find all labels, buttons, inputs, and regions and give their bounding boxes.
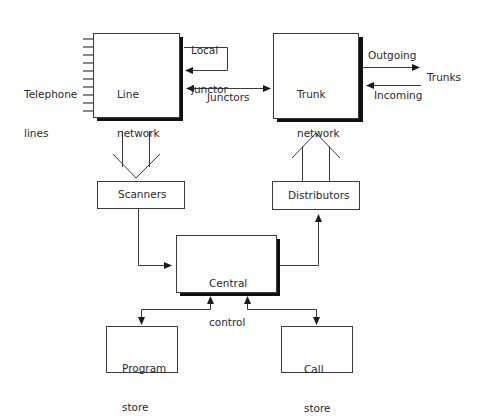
trunk-network-label: Trunk network <box>297 62 340 153</box>
telephone-lines-label-line1: Telephone <box>24 88 77 101</box>
call-store-label: Call store <box>304 337 331 416</box>
trunk-network-label-line2: network <box>297 127 340 140</box>
incoming-label: Incoming <box>374 89 422 102</box>
central-control-label-line1: Central <box>209 277 247 290</box>
telephone-lines-label-line2: lines <box>24 127 77 140</box>
program-store-label-line2: store <box>122 401 166 414</box>
central-control-label-line2: control <box>209 316 247 329</box>
central-control-label: Central control <box>209 251 247 342</box>
distributors-label: Distributors <box>288 189 349 202</box>
local-junctor-label-line1: Local <box>191 44 228 57</box>
program-store-label: Program store <box>122 336 166 416</box>
outgoing-label: Outgoing <box>368 49 416 62</box>
scanners-to-central-arrow <box>139 209 172 266</box>
program-store-central-arrow <box>142 297 211 324</box>
line-network-label-line2: network <box>117 127 160 140</box>
telephone-lines-ticks <box>83 39 93 111</box>
line-network-label-line1: Line <box>117 88 160 101</box>
call-store-central-arrow <box>248 297 317 324</box>
call-store-label-line2: store <box>304 402 331 415</box>
program-store-label-line1: Program <box>122 362 166 375</box>
central-to-distributors-arrow <box>280 215 319 266</box>
scanners-label: Scanners <box>118 188 166 201</box>
trunks-label: Trunks <box>427 71 461 84</box>
line-network-label: Line network <box>117 62 160 153</box>
trunk-network-label-line1: Trunk <box>297 88 340 101</box>
junctors-label: Junctors <box>207 91 250 104</box>
call-store-label-line1: Call <box>304 363 331 376</box>
telephone-lines-label: Telephone lines <box>24 62 77 153</box>
